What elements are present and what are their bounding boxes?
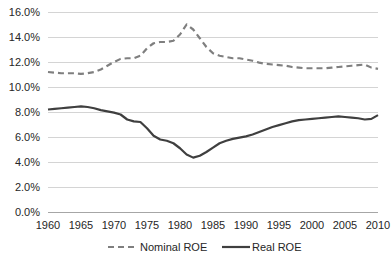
x-tick-label: 1960 bbox=[36, 219, 60, 231]
x-axis-tick-labels: 1960196519701975198019851990199520002005… bbox=[36, 219, 390, 231]
x-tick-label: 1965 bbox=[69, 219, 93, 231]
x-tick-label: 1990 bbox=[234, 219, 258, 231]
y-tick-label: 16.0% bbox=[9, 6, 40, 18]
y-axis-tick-labels: 0.0%2.0%4.0%6.0%8.0%10.0%12.0%14.0%16.0% bbox=[9, 6, 40, 218]
x-tick-label: 2000 bbox=[300, 219, 324, 231]
series-line-real-roe bbox=[48, 106, 378, 157]
roe-line-chart: 0.0%2.0%4.0%6.0%8.0%10.0%12.0%14.0%16.0%… bbox=[0, 0, 392, 260]
x-tick-label: 2005 bbox=[333, 219, 357, 231]
y-tick-label: 14.0% bbox=[9, 31, 40, 43]
y-tick-label: 12.0% bbox=[9, 56, 40, 68]
x-tick-label: 1995 bbox=[267, 219, 291, 231]
series-line-nominal-roe bbox=[48, 25, 378, 74]
x-tick-label: 1975 bbox=[135, 219, 159, 231]
y-tick-label: 4.0% bbox=[15, 156, 40, 168]
x-tick-label: 1980 bbox=[168, 219, 192, 231]
chart-legend: Nominal ROEReal ROE bbox=[108, 241, 302, 253]
x-tick-label: 2010 bbox=[366, 219, 390, 231]
gridlines bbox=[48, 13, 378, 213]
chart-container: 0.0%2.0%4.0%6.0%8.0%10.0%12.0%14.0%16.0%… bbox=[0, 0, 392, 260]
legend-label-real-roe: Real ROE bbox=[252, 241, 302, 253]
y-tick-label: 6.0% bbox=[15, 131, 40, 143]
y-tick-label: 8.0% bbox=[15, 106, 40, 118]
y-tick-label: 0.0% bbox=[15, 206, 40, 218]
x-tick-label: 1970 bbox=[102, 219, 126, 231]
legend-label-nominal-roe: Nominal ROE bbox=[140, 241, 207, 253]
y-tick-label: 2.0% bbox=[15, 181, 40, 193]
x-tick-label: 1985 bbox=[201, 219, 225, 231]
y-tick-label: 10.0% bbox=[9, 81, 40, 93]
